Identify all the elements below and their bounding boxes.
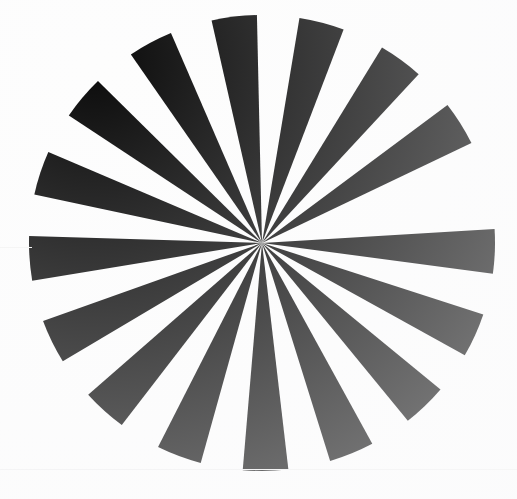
starburst-canvas [0, 0, 517, 499]
starburst-figure [0, 0, 517, 499]
